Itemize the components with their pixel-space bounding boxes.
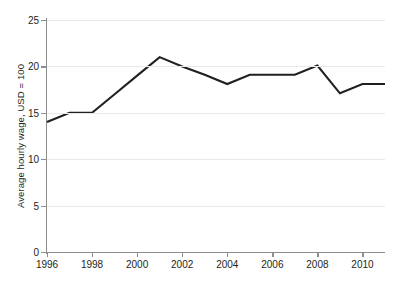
y-tick-mark [41, 20, 47, 21]
y-tick-label: 10 [9, 154, 39, 165]
gridline-y [47, 206, 385, 207]
y-tick-mark [41, 159, 47, 160]
y-tick-mark [41, 113, 47, 114]
y-tick-mark [41, 66, 47, 67]
data-series-average-hourly-wage [47, 20, 385, 252]
x-tick-label: 2004 [205, 259, 249, 270]
x-tick-mark [182, 252, 183, 257]
x-tick-mark [317, 252, 318, 257]
x-tick-mark [362, 252, 363, 257]
x-tick-mark [47, 252, 48, 257]
x-tick-label: 2002 [160, 259, 204, 270]
gridline-y [47, 159, 385, 160]
line-chart-figure: Average hourly wage, USD = 100 051015202… [0, 0, 401, 286]
gridline-y [47, 113, 385, 114]
x-tick-label: 1998 [70, 259, 114, 270]
x-tick-label: 2008 [295, 259, 339, 270]
x-tick-label: 2000 [115, 259, 159, 270]
y-tick-label: 0 [9, 247, 39, 258]
y-tick-label: 25 [9, 15, 39, 26]
y-tick-mark [41, 206, 47, 207]
gridline-y [47, 66, 385, 67]
x-tick-label: 1996 [25, 259, 69, 270]
y-tick-label: 5 [9, 200, 39, 211]
x-tick-mark [137, 252, 138, 257]
plot-area [47, 20, 385, 252]
y-tick-label: 20 [9, 61, 39, 72]
y-axis-tick-labels: 0510152025 [0, 0, 39, 286]
x-tick-mark [92, 252, 93, 257]
gridline-y [47, 20, 385, 21]
x-tick-label: 2006 [250, 259, 294, 270]
y-tick-label: 15 [9, 107, 39, 118]
x-tick-mark [272, 252, 273, 257]
x-tick-label: 2010 [340, 259, 384, 270]
x-tick-mark [227, 252, 228, 257]
